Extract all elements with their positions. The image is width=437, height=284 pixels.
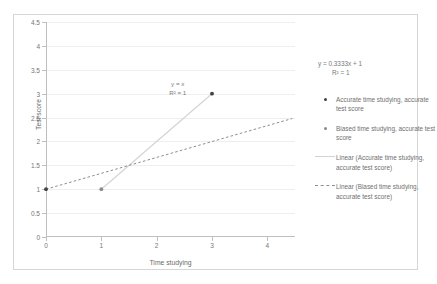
x-tick <box>101 237 102 241</box>
legend-label: Linear (Biased time studying, accurate t… <box>336 182 437 201</box>
data-point <box>210 92 214 96</box>
x-axis-title: Time studying <box>46 259 295 266</box>
legend-label: Linear (Accurate time studying, accurate… <box>336 153 437 172</box>
legend-entry[interactable]: Biased time studying, accurate test scor… <box>314 124 437 143</box>
y-tick-label: 3.5 <box>31 66 40 73</box>
data-point <box>99 187 103 191</box>
data-points <box>44 92 214 191</box>
legend: y = 0.3333x + 1 R² = 1 Accurate time stu… <box>314 59 437 211</box>
r-squared-text: R² = 1 <box>318 68 437 77</box>
x-tick-label: 2 <box>155 242 159 249</box>
y-tick-label: 4.5 <box>31 19 40 26</box>
trendline-equation: y = 0.3333x + 1 R² = 1 <box>314 59 437 78</box>
legend-marker-line-dashed <box>315 185 335 187</box>
equation-text: y = 0.3333x + 1 <box>318 60 362 67</box>
x-tick <box>212 237 213 241</box>
y-axis-title: Test score <box>35 85 42 145</box>
annotation-r-squared: R² = 1 <box>169 89 186 97</box>
y-tick-label: 1.5 <box>31 162 40 169</box>
y-tick-label: 0 <box>36 234 40 241</box>
trendline-solid <box>101 93 213 190</box>
x-tick <box>267 237 268 241</box>
x-tick-label: 0 <box>44 242 48 249</box>
chart-screenshot: 00.511.522.533.544.5 01234 y = xR² = 1 T… <box>0 0 437 284</box>
plot-area: 00.511.522.533.544.5 01234 y = xR² = 1 <box>46 22 295 237</box>
legend-label: Biased time studying, accurate test scor… <box>336 124 437 143</box>
annotation-y-equals-x: y = xR² = 1 <box>169 80 186 97</box>
annotation-equation: y = x <box>169 80 186 88</box>
x-tick-label: 1 <box>100 242 104 249</box>
legend-entry[interactable]: Linear (Accurate time studying, accurate… <box>314 153 437 172</box>
trendlines <box>46 93 292 190</box>
x-tick <box>46 237 47 241</box>
legend-marker-dot-dark <box>324 98 327 101</box>
x-tick <box>157 237 158 241</box>
x-tick-label: 4 <box>266 242 270 249</box>
legend-marker-dot-gray <box>324 127 327 130</box>
trendline-dashed <box>46 119 292 190</box>
series-layer <box>46 22 295 237</box>
legend-marker-line-solid <box>315 156 335 158</box>
y-tick-label: 0.5 <box>31 210 40 217</box>
data-point <box>44 187 48 191</box>
y-tick-label: 4 <box>36 42 40 49</box>
y-tick-label: 1 <box>36 186 40 193</box>
legend-entry[interactable]: Linear (Biased time studying, accurate t… <box>314 182 437 201</box>
legend-entries: Accurate time studying, accurate test sc… <box>314 95 437 202</box>
legend-label: Accurate time studying, accurate test sc… <box>336 95 437 114</box>
chart-frame: 00.511.522.533.544.5 01234 y = xR² = 1 T… <box>13 14 418 270</box>
legend-entry[interactable]: Accurate time studying, accurate test sc… <box>314 95 437 114</box>
x-tick-label: 3 <box>210 242 214 249</box>
